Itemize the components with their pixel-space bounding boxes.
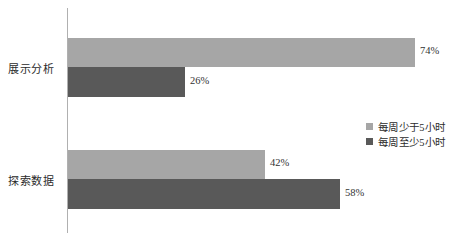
legend-swatch-icon-series1: [366, 123, 373, 130]
category-label-1: 展示分析: [0, 60, 62, 76]
legend-item-series2[interactable]: 每周至少5小时: [366, 134, 445, 149]
bar-group1-series1[interactable]: [68, 38, 415, 67]
chart-legend: 每周少于5小时 每周至少5小时: [366, 119, 445, 149]
legend-label-series1: 每周少于5小时: [378, 119, 445, 134]
legend-item-series1[interactable]: 每周少于5小时: [366, 119, 445, 134]
bar-group2-series2[interactable]: [68, 179, 340, 209]
legend-swatch-icon-series2: [366, 138, 373, 145]
bar-value-group2-series1: 42%: [270, 157, 289, 168]
bar-value-group1-series2: 26%: [190, 75, 209, 86]
bar-chart: 展示分析 74% 26% 探索数据 42% 58% 每周少于5小时 每周至少5小…: [0, 0, 468, 241]
bar-value-group1-series1: 74%: [420, 45, 439, 56]
legend-label-series2: 每周至少5小时: [378, 134, 445, 149]
category-label-2: 探索数据: [0, 172, 62, 188]
bar-value-group2-series2: 58%: [345, 187, 364, 198]
bar-group2-series1[interactable]: [68, 150, 265, 179]
bar-group1-series2[interactable]: [68, 67, 185, 97]
